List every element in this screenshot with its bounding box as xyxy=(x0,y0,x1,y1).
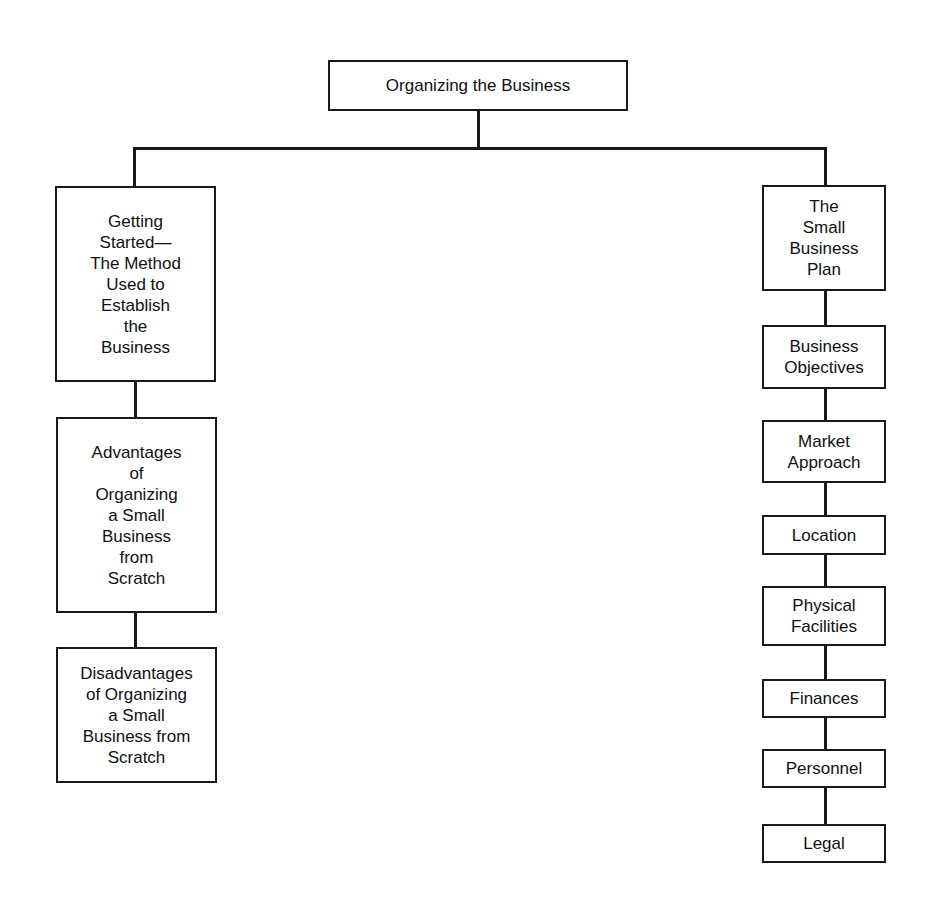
legal-node: Legal xyxy=(762,824,886,863)
right-drop-connector xyxy=(824,147,827,187)
market-approach-node: Market Approach xyxy=(762,420,886,483)
root-connector xyxy=(477,110,480,149)
root-node: Organizing the Business xyxy=(328,60,628,111)
location-node: Location xyxy=(762,515,886,555)
business-objectives-node: Business Objectives xyxy=(762,325,886,389)
horizontal-connector xyxy=(133,147,827,150)
left-drop-connector xyxy=(133,147,136,187)
finances-node: Finances xyxy=(762,679,886,718)
getting-started-node: Getting Started— The Method Used to Esta… xyxy=(55,186,216,382)
advantages-node: Advantages of Organizing a Small Busines… xyxy=(56,417,217,613)
disadvantages-node: Disadvantages of Organizing a Small Busi… xyxy=(56,647,217,783)
small-business-plan-node: The Small Business Plan xyxy=(762,185,886,291)
physical-facilities-node: Physical Facilities xyxy=(762,586,886,646)
personnel-node: Personnel xyxy=(762,749,886,788)
